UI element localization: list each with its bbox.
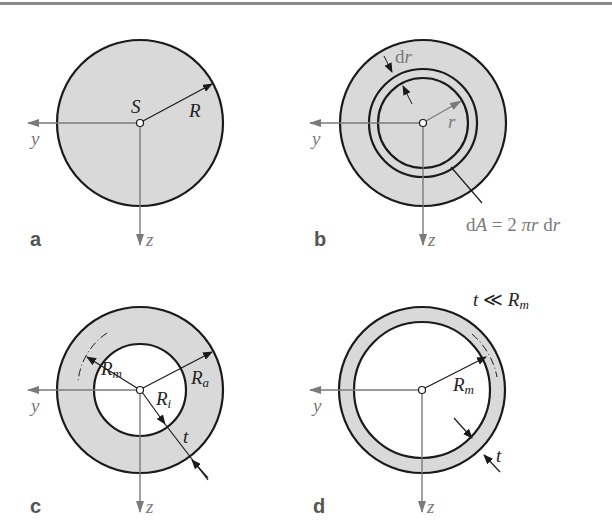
centroid-marker <box>137 120 144 127</box>
z-axis-label: z <box>427 229 436 250</box>
centroid-marker <box>420 120 427 127</box>
panel-label-d: d <box>313 495 325 517</box>
panel-b: dr r dA = 2 πr dr y z b <box>310 40 561 250</box>
dr-label: dr <box>395 46 413 67</box>
centroid-label: S <box>131 96 141 117</box>
radius-label: R <box>188 100 201 121</box>
y-axis-label: y <box>311 395 322 416</box>
y-axis-label: y <box>29 128 40 149</box>
thickness-label: t <box>496 445 502 466</box>
z-axis-label: z <box>145 229 154 250</box>
panel-d: Rm t t ≪ Rm y z d <box>310 289 529 517</box>
panel-c: Rm Ra Ri t y z c <box>28 307 223 517</box>
panel-label-b: b <box>314 228 326 250</box>
thin-wall-condition: t ≪ Rm <box>473 289 529 312</box>
thickness-arrow-outer <box>192 460 208 478</box>
panel-label-a: a <box>30 228 42 250</box>
z-axis-label: z <box>426 496 435 517</box>
z-axis-label: z <box>145 496 154 517</box>
thickness-label: t <box>183 426 189 447</box>
y-axis-label: y <box>29 395 40 416</box>
radius-label: r <box>448 111 456 132</box>
centroid-marker <box>419 387 426 394</box>
panel-a: S R y z a <box>28 40 223 250</box>
panel-label-c: c <box>30 495 41 517</box>
figure-canvas: S R y z a dr r dA = 2 πr dr y z b <box>0 0 612 530</box>
centroid-marker <box>137 387 144 394</box>
area-equation: dA = 2 πr dr <box>466 214 561 235</box>
y-axis-label: y <box>310 128 321 149</box>
